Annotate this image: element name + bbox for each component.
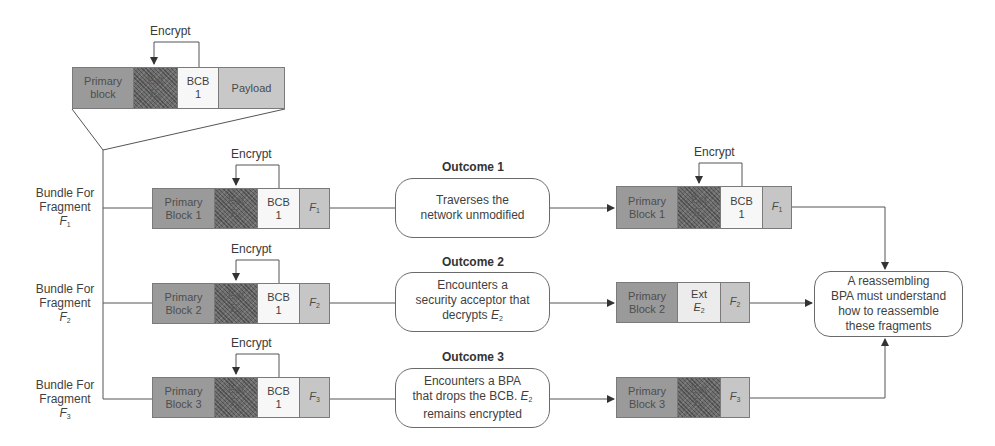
- bcb-block: BCB1: [721, 187, 763, 228]
- fragment-label-3: Bundle For Fragment F3: [20, 378, 110, 424]
- block-label: Payload: [232, 82, 272, 95]
- fragment-payload-block: F2: [721, 283, 749, 322]
- fragment-payload-block: F1: [300, 189, 329, 228]
- source-bundle: Primary block Ext E2 BCB 1 Payload: [72, 67, 285, 109]
- ext-block-encrypted: Ext E2: [678, 378, 721, 417]
- outcome-box-3: Encounters a BPA that drops the BCB. E2 …: [395, 368, 550, 428]
- encrypt-label: Encrypt: [231, 336, 272, 350]
- encrypt-label: Encrypt: [150, 24, 191, 38]
- encrypt-label: Encrypt: [694, 145, 735, 159]
- result-bundle-2: PrimaryBlock 2 Ext E2 F2: [616, 282, 750, 323]
- bcb-block: BCB1: [258, 189, 300, 228]
- block-label: BCB: [187, 75, 210, 88]
- outcome-title-2: Outcome 2: [395, 255, 551, 269]
- fragment-label-1: Bundle For Fragment F1: [20, 186, 110, 232]
- reassembly-box: A reassembling BPA must understand how t…: [814, 271, 963, 337]
- block-label: 1: [195, 88, 201, 101]
- fragment-bundle-2: PrimaryBlock 2 Ext E2 BCB1 F2: [152, 283, 330, 324]
- primary-block: PrimaryBlock 3: [617, 378, 678, 417]
- fragment-bundle-1: PrimaryBlock 1 Ext E2 BCB1 F1: [152, 188, 330, 229]
- bcb-block: BCB1: [258, 378, 300, 417]
- fragment-label-2: Bundle For Fragment F2: [20, 282, 110, 328]
- primary-block: PrimaryBlock 1: [617, 187, 678, 228]
- primary-block: Primary block: [73, 68, 134, 108]
- fragment-payload-block: F1: [763, 187, 791, 228]
- primary-block: PrimaryBlock 1: [153, 189, 215, 228]
- ext-block-encrypted: Ext E2: [215, 378, 258, 417]
- outcome-title-3: Outcome 3: [395, 350, 551, 364]
- primary-block: PrimaryBlock 3: [153, 378, 215, 417]
- fragment-payload-block: F3: [300, 378, 329, 417]
- primary-block: PrimaryBlock 2: [153, 284, 215, 323]
- bcb-block: BCB 1: [178, 68, 219, 108]
- block-label: E2: [150, 87, 161, 103]
- primary-block: PrimaryBlock 2: [617, 283, 678, 322]
- ext-block-encrypted: Ext E2: [215, 284, 258, 323]
- block-label: Primary: [84, 75, 122, 88]
- fragment-payload-block: F2: [300, 284, 329, 323]
- outcome-box-2: Encounters a security acceptor that decr…: [395, 272, 550, 332]
- fragment-payload-block: F3: [721, 378, 749, 417]
- encrypt-label: Encrypt: [231, 242, 272, 256]
- ext-block-encrypted: Ext E2: [678, 187, 721, 228]
- block-label: block: [90, 88, 116, 101]
- payload-block: Payload: [219, 68, 284, 108]
- bcb-block: BCB1: [258, 284, 300, 323]
- ext-block-decrypted: Ext E2: [678, 283, 721, 322]
- result-bundle-3: PrimaryBlock 3 Ext E2 F3: [616, 377, 750, 418]
- result-bundle-1: PrimaryBlock 1 Ext E2 BCB1 F1: [616, 186, 792, 229]
- ext-block-encrypted: Ext E2: [215, 189, 258, 228]
- outcome-title-1: Outcome 1: [395, 160, 551, 174]
- encrypt-label: Encrypt: [231, 147, 272, 161]
- fragment-bundle-3: PrimaryBlock 3 Ext E2 BCB1 F3: [152, 377, 330, 418]
- outcome-box-1: Traverses the network unmodified: [395, 178, 550, 238]
- ext-block-encrypted: Ext E2: [134, 68, 178, 108]
- block-label: Ext: [148, 74, 164, 87]
